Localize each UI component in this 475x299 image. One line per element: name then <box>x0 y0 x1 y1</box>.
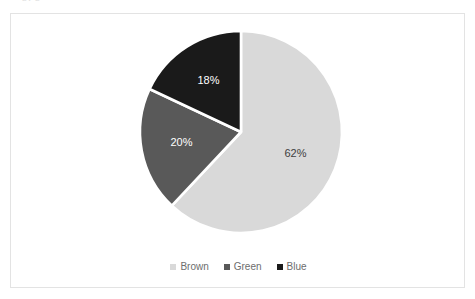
pie-chart-svg: 62% 20% 18% <box>11 14 466 289</box>
legend-item-blue[interactable]: Blue <box>277 262 307 272</box>
legend-swatch-icon-brown <box>170 264 176 270</box>
pie-slice-label-brown: 62% <box>284 147 306 159</box>
pie-slice-label-green: 20% <box>170 136 192 148</box>
legend-swatch-icon-blue <box>277 264 283 270</box>
legend-item-brown[interactable]: Brown <box>170 262 208 272</box>
screenshot-page: by p 62% 20% 18% BrownGreenBlue <box>0 0 475 299</box>
legend-label-brown: Brown <box>180 262 208 272</box>
legend-item-green[interactable]: Green <box>224 262 262 272</box>
legend-label-green: Green <box>234 262 262 272</box>
clipped-header-text: by p <box>22 0 40 1</box>
legend-swatch-icon-green <box>224 264 230 270</box>
pie-slice-label-blue: 18% <box>197 74 219 86</box>
legend-label-blue: Blue <box>287 262 307 272</box>
chart-frame: 62% 20% 18% BrownGreenBlue <box>10 13 465 288</box>
chart-legend: BrownGreenBlue <box>11 262 466 272</box>
pie-chart-plot-area: 62% 20% 18% BrownGreenBlue <box>11 14 466 289</box>
